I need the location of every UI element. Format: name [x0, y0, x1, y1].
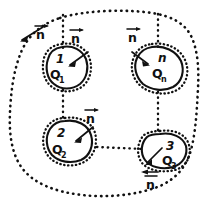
n-label-regionn: n — [127, 27, 141, 45]
region-n-charge-subscript: n — [161, 75, 167, 84]
region-3-normal-tick-head — [141, 170, 148, 175]
outer-normal-arrow-head — [20, 37, 28, 43]
n-label-outer-text: n — [36, 27, 45, 42]
n-label-region3-text: n — [146, 177, 155, 192]
region-3: 3 Q 3 n — [138, 131, 190, 192]
region-1: 1 Q 1 — [43, 44, 91, 92]
n-label-region1-text: n — [71, 31, 80, 46]
region-3-charge-subscript: 3 — [171, 162, 177, 171]
region-3-index-label: 3 — [166, 139, 174, 153]
region-1-index-label: 1 — [56, 52, 64, 66]
n-label-outer: n — [35, 24, 49, 42]
physics-diagram-svg: 1 Q 1 n Q n 2 Q 2 — [0, 0, 211, 209]
n-label-region3: n — [145, 176, 157, 192]
link-region2-to-region3 — [97, 147, 143, 149]
n-label-region1: n — [70, 28, 84, 46]
region-n: n Q n — [132, 44, 188, 94]
region-1-normal-arrow-head — [68, 62, 76, 68]
region-3-normal-arrow-shaft — [147, 148, 162, 163]
n-label-region2-text: n — [86, 111, 95, 126]
region-1-charge-subscript: 1 — [59, 76, 65, 85]
region-2-index-label: 2 — [57, 126, 65, 140]
figure-canvas: 1 Q 1 n Q n 2 Q 2 — [0, 0, 211, 209]
region-3-normal-arrow — [145, 148, 162, 165]
n-label-region2: n — [85, 108, 99, 126]
region-n-inner-normal-label: n — [158, 51, 167, 65]
n-label-regionn-text: n — [128, 30, 137, 45]
outer-normal-indicator: n — [20, 24, 49, 42]
region-2-charge-subscript: 2 — [61, 151, 67, 160]
region-1-normal-arrow — [68, 52, 88, 67]
